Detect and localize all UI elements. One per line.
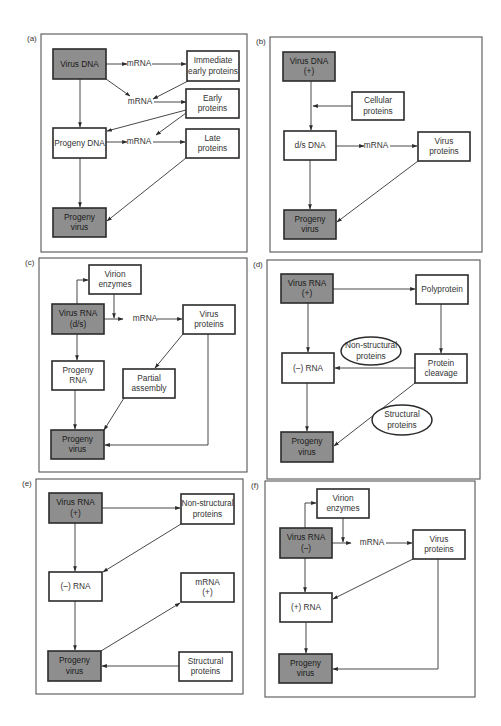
node-label: mRNA — [360, 537, 385, 547]
node-label: (+) — [304, 66, 315, 76]
node-label: Polyprotein — [421, 284, 463, 294]
node-prna: (+) RNA — [280, 593, 332, 622]
panels-layer: (a)Virus DNAmRNAImmediateearly proteinsm… — [22, 34, 482, 697]
node-label: proteins — [387, 420, 417, 430]
panel-a: (a)Virus DNAmRNAImmediateearly proteinsm… — [27, 34, 247, 252]
node-m1: mRNA — [133, 313, 158, 323]
arrow-connector — [106, 79, 130, 96]
node-label: (–) RNA — [293, 363, 323, 373]
node-prna: ProgenyRNA — [52, 361, 104, 390]
node-label: (+) — [302, 288, 313, 298]
node-label: enzymes — [98, 279, 131, 289]
node-label: Cellular — [364, 95, 392, 105]
node-pv: Progenyvirus — [48, 651, 101, 681]
arrow-connector — [156, 113, 186, 135]
node-label: Non-structural — [345, 340, 397, 350]
node-ve: Virionenzymes — [317, 489, 369, 518]
node-pc: Proteincleavage — [415, 354, 467, 383]
arrow-connector — [333, 559, 438, 669]
node-label: proteins — [363, 106, 393, 116]
node-label: Progeny — [295, 214, 327, 224]
panel-f: (f)VirionenzymesVirus RNA(–)mRNAViruspro… — [251, 481, 475, 697]
node-label: Virus DNA — [60, 59, 99, 69]
node-label: proteins — [194, 319, 224, 329]
panel-e: (e)Virus RNA(+)Non-structuralproteins(–)… — [22, 479, 243, 694]
panel-tag: (b) — [256, 37, 266, 46]
node-iep: Immediateearly proteins — [187, 51, 239, 81]
node-label: (+) — [202, 587, 213, 597]
node-label: proteins — [424, 544, 454, 554]
node-dsdna: d/s DNA — [284, 131, 336, 160]
node-label: Non-structural — [181, 498, 233, 508]
node-label: Virion — [104, 269, 125, 279]
node-m2: mRNA — [128, 96, 153, 106]
node-pv: Progenyvirus — [284, 210, 336, 239]
panel-tag: (e) — [22, 479, 32, 488]
node-m1: mRNA — [127, 58, 152, 68]
node-label: mRNA — [127, 136, 152, 146]
node-pv: Progenyvirus — [281, 432, 333, 462]
node-mrnap: mRNA(+) — [181, 573, 234, 602]
node-nsp: Non-structuralproteins — [341, 337, 401, 365]
node-pv: Progenyvirus — [279, 654, 332, 683]
node-label: Virus — [200, 309, 219, 319]
node-label: enzymes — [326, 503, 359, 513]
node-label: (+) — [70, 508, 81, 518]
arrow-connector — [153, 81, 188, 99]
arrow-connector — [337, 161, 418, 222]
panel-c: (c)VirionenzymesVirus RNA(d/s)mRNAVirusp… — [25, 258, 247, 472]
node-m3: mRNA — [127, 136, 152, 146]
node-label: (+) RNA — [291, 602, 322, 612]
node-label: early proteins — [188, 66, 238, 76]
panel-b: (b)Virus DNA(+)Cellularproteinsd/s DNAmR… — [256, 37, 482, 252]
virus-replication-figure: (a)Virus DNAmRNAImmediateearly proteinsm… — [0, 0, 501, 726]
node-label: Partial — [137, 373, 161, 383]
node-label: (–) — [301, 543, 311, 553]
node-vrna: Virus RNA(+) — [281, 274, 333, 303]
node-vdna: Virus DNA — [53, 49, 106, 79]
node-nsp: Non-structuralproteins — [181, 494, 234, 524]
node-label: proteins — [198, 143, 228, 153]
node-sp: Structuralproteins — [372, 405, 432, 435]
node-vp: Virusproteins — [183, 305, 235, 334]
node-label: (–) RNA — [61, 581, 91, 591]
node-label: virus — [71, 222, 89, 232]
node-pa: Partialassembly — [123, 369, 175, 398]
panel-tag: (f) — [251, 481, 259, 490]
node-vp: Virusproteins — [413, 530, 465, 559]
node-label: Progeny — [59, 655, 91, 665]
node-label: virus — [301, 224, 319, 234]
node-pv: Progenyvirus — [53, 208, 106, 237]
node-pv: Progenyvirus — [51, 430, 104, 459]
node-label: (d/s) — [70, 319, 87, 329]
node-label: proteins — [429, 146, 459, 156]
node-label: Structural — [384, 409, 420, 419]
node-label: mRNA — [133, 313, 158, 323]
arrow-connector — [103, 524, 181, 572]
node-label: assembly — [131, 383, 167, 393]
node-mrna: (–) RNA — [282, 353, 334, 383]
node-label: Progeny — [290, 658, 322, 668]
node-lp: Lateproteins — [186, 129, 239, 158]
node-label: proteins — [198, 103, 228, 113]
node-cp: Cellularproteins — [352, 92, 404, 120]
node-label: proteins — [193, 509, 223, 519]
node-pdna: Progeny DNA — [53, 128, 106, 158]
node-vrna: Virus RNA(d/s) — [52, 304, 104, 334]
panel-tag: (c) — [25, 258, 35, 267]
node-label: proteins — [356, 351, 386, 361]
node-label: Structural — [188, 656, 224, 666]
arrow-connector — [104, 398, 124, 430]
node-label: Virus RNA — [288, 278, 327, 288]
node-m1: mRNA — [360, 537, 385, 547]
node-vrna: Virus RNA(+) — [49, 493, 102, 523]
arrow-connector — [77, 280, 88, 304]
node-label: Progeny — [64, 212, 96, 222]
node-label: Virus — [435, 136, 454, 146]
node-label: Virus — [430, 534, 449, 544]
node-label: Virus RNA — [59, 308, 98, 318]
node-pp: Polyprotein — [416, 275, 468, 304]
node-ve: Virionenzymes — [89, 265, 141, 294]
node-label: Late — [204, 133, 221, 143]
node-label: cleavage — [424, 368, 458, 378]
